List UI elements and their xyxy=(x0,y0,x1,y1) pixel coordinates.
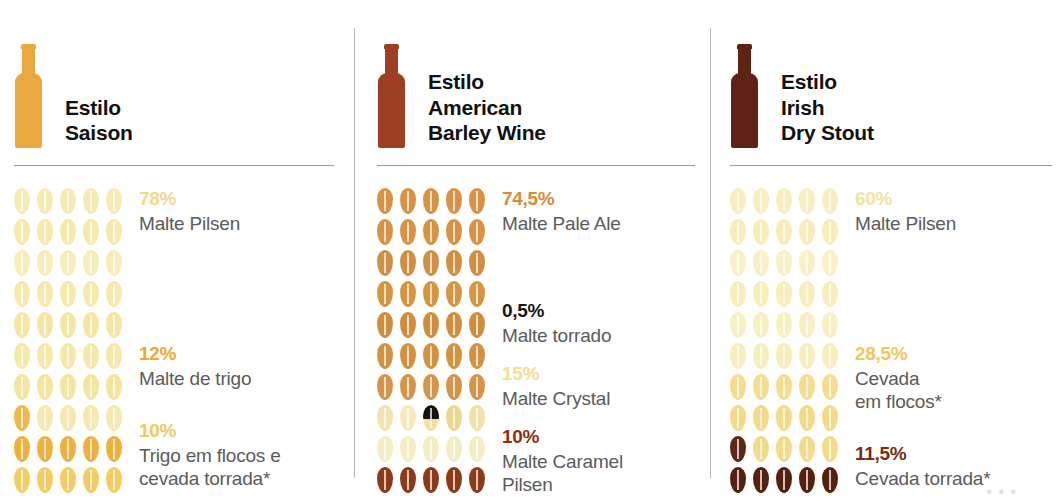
legend-name-line: Malte Pilsen xyxy=(855,212,956,235)
style-title: EstiloIrishDry Stout xyxy=(781,69,874,148)
grain-row xyxy=(730,250,838,276)
grain-icon xyxy=(106,219,122,245)
grain-icon xyxy=(776,250,792,276)
grain-row xyxy=(377,219,485,245)
header-divider xyxy=(730,165,1052,166)
grain-icon xyxy=(60,250,76,276)
grain-icon xyxy=(822,467,838,493)
legend-malt-name: Malte Pale Ale xyxy=(502,212,621,235)
grain-icon xyxy=(60,343,76,369)
grain-icon xyxy=(106,250,122,276)
grain-icon xyxy=(469,219,485,245)
legend-name-line: Malte de trigo xyxy=(139,367,251,390)
grain-row xyxy=(14,343,122,369)
legend-malt-name: Malte torrado xyxy=(502,324,611,347)
grain-row xyxy=(14,312,122,338)
grain-row xyxy=(14,467,122,493)
grain-icon xyxy=(60,312,76,338)
grain-icon xyxy=(753,467,769,493)
grain-icon xyxy=(423,281,439,307)
grain-row xyxy=(377,467,485,493)
grain-icon xyxy=(730,436,746,462)
grain-icon xyxy=(83,312,99,338)
style-title-line: Barley Wine xyxy=(428,120,546,146)
grain-icon xyxy=(83,250,99,276)
legend-malt-name: Malte Pilsen xyxy=(139,212,240,235)
grain-icon xyxy=(469,312,485,338)
grain-icon xyxy=(423,374,439,400)
grain-icon xyxy=(776,312,792,338)
grain-icon xyxy=(14,343,30,369)
legend-malt-name: Malte Crystal xyxy=(502,387,610,410)
grain-icon xyxy=(799,312,815,338)
grain-row xyxy=(14,219,122,245)
legend-item: 74,5%Malte Pale Ale xyxy=(502,188,621,235)
grain-icon xyxy=(14,436,30,462)
grain-icon xyxy=(377,436,393,462)
grain-icon xyxy=(14,250,30,276)
grain-icon xyxy=(377,405,393,431)
grain-icon xyxy=(423,188,439,214)
grain-icon xyxy=(60,467,76,493)
grain-icon xyxy=(14,374,30,400)
grain-icon xyxy=(446,436,462,462)
legend-malt-name: Cevadaem flocos* xyxy=(855,367,942,413)
grain-row xyxy=(377,250,485,276)
legend-percentage: 10% xyxy=(502,426,623,448)
grain-icon xyxy=(106,467,122,493)
grain-row xyxy=(730,281,838,307)
legend-name-line: Malte Caramel xyxy=(502,450,623,473)
grain-icon xyxy=(377,343,393,369)
grain-icon xyxy=(822,374,838,400)
grain-icon xyxy=(753,436,769,462)
grain-icon xyxy=(753,312,769,338)
grain-icon xyxy=(799,343,815,369)
grain-row xyxy=(730,343,838,369)
grain-icon xyxy=(753,219,769,245)
grain-icon xyxy=(400,250,416,276)
legend-percentage: 10% xyxy=(139,420,281,442)
grain-row xyxy=(730,467,838,493)
legend-item: 12%Malte de trigo xyxy=(139,343,251,390)
grain-icon xyxy=(14,219,30,245)
grain-icon xyxy=(400,467,416,493)
column-body: 78%Malte Pilsen12%Malte de trigo10%Trigo… xyxy=(14,188,352,493)
grain-icon xyxy=(776,219,792,245)
legend-item: 0,5%Malte torrado xyxy=(502,300,611,347)
grain-icon xyxy=(799,467,815,493)
grain-icon xyxy=(776,436,792,462)
grain-icon xyxy=(822,188,838,214)
legend-percentage: 74,5% xyxy=(502,188,621,210)
grain-row xyxy=(14,281,122,307)
grain-icon xyxy=(83,188,99,214)
style-column-irish-dry-stout: EstiloIrishDry Stout60%Malte Pilsen28,5%… xyxy=(704,0,1063,503)
legend-item: 10%Trigo em flocos ecevada torrada* xyxy=(139,420,281,490)
grain-icon xyxy=(83,405,99,431)
grain-icon xyxy=(776,281,792,307)
legend-name-line: Cevada torrada* xyxy=(855,467,990,490)
legend: 60%Malte Pilsen28,5%Cevadaem flocos*11,5… xyxy=(838,188,1063,493)
style-title-line: Estilo xyxy=(65,95,133,121)
grain-icon xyxy=(730,312,746,338)
style-title-line: American xyxy=(428,95,546,121)
grain-icon xyxy=(423,219,439,245)
grain-icon xyxy=(822,250,838,276)
footnote-marker: * * * xyxy=(986,485,1017,502)
grain-icon xyxy=(400,281,416,307)
grain-icon xyxy=(730,343,746,369)
grain-icon xyxy=(423,312,439,338)
header-divider xyxy=(14,165,334,166)
grain-icon xyxy=(400,188,416,214)
grain-row xyxy=(377,281,485,307)
grain-icon xyxy=(60,405,76,431)
grain-icon xyxy=(37,250,53,276)
beer-bottle-icon xyxy=(377,44,406,148)
grain-icon xyxy=(60,281,76,307)
grain-icon xyxy=(377,188,393,214)
grain-icon xyxy=(400,405,416,431)
grain-row xyxy=(14,405,122,431)
legend-percentage: 28,5% xyxy=(855,343,942,365)
grain-icon xyxy=(730,188,746,214)
grain-icon xyxy=(37,188,53,214)
legend-malt-name: Malte Pilsen xyxy=(855,212,956,235)
